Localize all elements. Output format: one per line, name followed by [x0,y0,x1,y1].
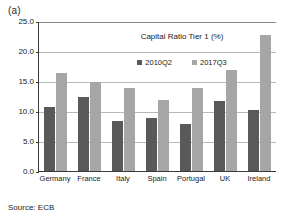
bar-group [141,22,175,171]
bar[interactable] [124,88,135,171]
bar-group [107,22,141,171]
y-tick-mark [36,172,39,173]
bar[interactable] [112,121,123,171]
bar[interactable] [192,88,203,171]
x-tick-label: France [72,174,106,183]
y-axis-tick-labels: 25.020.015.010.05.00.0 [4,22,34,172]
bar[interactable] [146,118,157,171]
x-tick-label: Spain [140,174,174,183]
bar-group [73,22,107,171]
x-tick-label: Germany [38,174,72,183]
bar[interactable] [78,97,89,171]
bar[interactable] [90,82,101,171]
x-tick-label: Portugal [174,174,208,183]
bar[interactable] [260,35,271,171]
plot-canvas: Capital Ratio Tier 1 (%) 2010Q22017Q3 [38,22,276,172]
x-tick-label: Italy [106,174,140,183]
y-tick-label: 10.0 [6,108,34,116]
bar[interactable] [56,73,67,171]
y-tick-label: 5.0 [6,138,34,146]
panel-label: (a) [8,5,21,16]
x-axis-tick-labels: GermanyFranceItalySpainPortugalUKIreland [38,174,276,183]
bar[interactable] [180,124,191,171]
plot-area: 25.020.015.010.05.00.0 Capital Ratio Tie… [0,22,282,194]
bar-group [174,22,208,171]
y-tick-label: 25.0 [6,18,34,26]
bar[interactable] [158,100,169,171]
y-tick-label: 15.0 [6,78,34,86]
bar[interactable] [226,70,237,171]
bar[interactable] [44,107,55,171]
bar-series-container [39,22,276,171]
x-tick-label: UK [208,174,242,183]
bar[interactable] [214,101,225,171]
bar-group [39,22,73,171]
bar-group [208,22,242,171]
bar[interactable] [248,110,259,171]
x-tick-label: Ireland [242,174,276,183]
bar-group [242,22,276,171]
y-tick-label: 0.0 [6,168,34,176]
source-note: Source: ECB [8,203,54,212]
y-tick-label: 20.0 [6,48,34,56]
figure-panel-a: (a) 25.020.015.010.05.00.0 Capital Ratio… [0,0,282,221]
